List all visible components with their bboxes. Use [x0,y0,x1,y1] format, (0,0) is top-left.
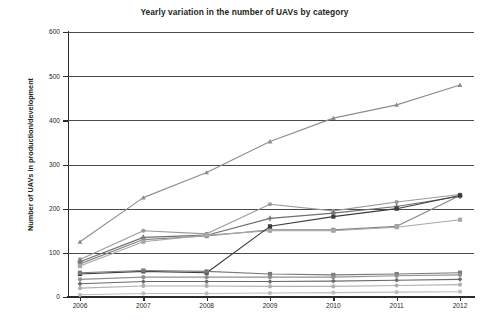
data-point-marker [78,281,83,286]
x-tick-mark [460,297,461,301]
x-tick-label: 2006 [60,302,100,309]
data-point-marker [141,275,145,279]
data-point-marker [141,240,145,244]
data-point-marker [331,215,335,219]
x-tick-mark [80,297,81,301]
data-point-marker [268,291,272,295]
data-point-marker [331,229,335,233]
y-tick-mark [63,76,68,77]
data-point-marker [458,83,463,87]
data-point-marker [394,278,399,283]
data-point-marker [268,202,272,206]
data-point-marker [78,271,82,275]
data-point-marker [395,207,399,211]
data-point-marker [331,279,336,284]
data-point-marker [395,290,399,294]
x-tick-label: 2011 [377,302,417,309]
x-tick-label: 2007 [123,302,163,309]
data-point-marker [267,216,272,221]
y-tick-label: 500 [34,73,60,80]
y-tick-label: 300 [34,161,60,168]
data-point-marker [141,291,145,295]
data-point-marker [205,291,209,295]
data-point-marker [395,225,399,229]
data-point-marker [268,224,272,228]
x-tick-mark [207,297,208,301]
data-point-marker [141,284,145,288]
data-point-marker [458,283,462,287]
data-point-marker [331,275,335,279]
data-point-marker [141,229,145,233]
data-point-marker [331,284,335,288]
data-point-marker [395,200,399,204]
data-point-marker [395,283,399,287]
data-point-marker [205,269,209,273]
data-point-marker [78,264,82,268]
series-line [80,195,460,274]
series-series-11 [78,290,462,297]
x-tick-label: 2008 [187,302,227,309]
x-tick-mark [270,297,271,301]
y-tick-label: 400 [34,117,60,124]
y-tick-mark [63,297,68,298]
data-point-marker [268,275,272,279]
data-point-marker [205,275,209,279]
data-point-marker [205,284,209,288]
data-point-marker [268,229,272,233]
x-tick-mark [143,297,144,301]
data-point-marker [204,279,209,284]
data-point-marker [268,279,273,284]
data-point-marker [205,233,209,237]
data-point-marker [458,277,463,282]
data-point-marker [141,268,145,272]
y-tick-label: 600 [34,28,60,35]
data-point-marker [458,193,462,197]
y-tick-mark [63,209,68,210]
data-point-marker [78,277,82,281]
data-point-marker [395,274,399,278]
y-tick-mark [63,253,68,254]
x-tick-label: 2010 [313,302,353,309]
data-point-marker [141,279,146,284]
x-tick-mark [397,297,398,301]
data-point-marker [268,284,272,288]
data-point-marker [458,273,462,277]
series-layer [68,32,474,297]
y-tick-mark [63,32,68,33]
y-tick-label: 0 [34,293,60,300]
plot-area [68,32,474,297]
chart-figure: Yearly variation in the number of UAVs b… [0,0,489,320]
data-point-marker [458,290,462,294]
x-tick-mark [333,297,334,301]
y-tick-label: 100 [34,249,60,256]
data-point-marker [78,286,82,290]
chart-title: Yearly variation in the number of UAVs b… [0,7,489,17]
y-tick-label: 200 [34,205,60,212]
x-tick-label: 2009 [250,302,290,309]
y-tick-mark [63,165,68,166]
data-point-marker [458,218,462,222]
data-point-marker [331,290,335,294]
x-tick-label: 2012 [440,302,480,309]
y-tick-mark [63,120,68,121]
